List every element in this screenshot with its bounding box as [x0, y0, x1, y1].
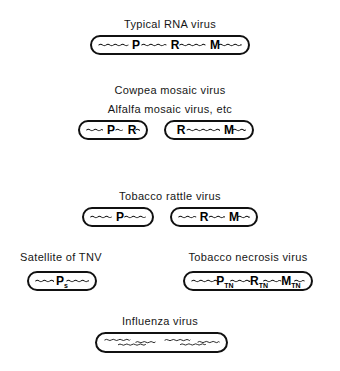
- influenza-particle-rna-strand: [97, 334, 226, 351]
- tobacco-rattle-particle-left: P: [82, 207, 154, 227]
- tobacco-rattle-particle-right-gene-r: R: [200, 211, 209, 223]
- cowpea-alfalfa-mosaic-virus-caption: Alfalfa mosaic virus, etc: [108, 103, 232, 116]
- gene-subscript: s: [64, 282, 68, 289]
- tobacco-rattle-particle-left-gene-p: P: [116, 211, 124, 223]
- tobacco-rattle-particle-right-rna-strand: [172, 209, 256, 225]
- gene-subscript: TN: [259, 282, 268, 289]
- gene-letter: P: [107, 123, 115, 137]
- satellite-and-necrosis-caption: Satellite of TNV: [20, 251, 102, 264]
- gene-letter: R: [250, 274, 259, 288]
- typical-rna-virus-particle-gene-m: M: [210, 39, 220, 51]
- virus-genome-organization-diagram: Typical RNA virusPRMCowpea mosaic virusA…: [0, 0, 340, 371]
- tobacco-rattle-particle-right-gene-m: M: [229, 211, 239, 223]
- cowpea-alfalfa-particle-left: PR: [78, 120, 148, 140]
- typical-rna-virus-particle-gene-r: R: [171, 39, 180, 51]
- cowpea-alfalfa-particle-left-gene-p: P: [107, 124, 115, 136]
- gene-subscript: TN: [291, 282, 300, 289]
- gene-letter: R: [200, 210, 209, 224]
- gene-letter: M: [224, 123, 234, 137]
- cowpea-alfalfa-particle-left-gene-r: R: [128, 124, 137, 136]
- cowpea-alfalfa-particle-right: RM: [164, 120, 254, 140]
- influenza-particle: [95, 332, 228, 353]
- tobacco-necrosis-particle-gene-ptn: PTN: [216, 275, 233, 287]
- typical-rna-virus-caption: Typical RNA virus: [124, 18, 216, 31]
- satellite-tnv-particle-gene-ps: Ps: [56, 275, 68, 287]
- gene-letter: M: [281, 274, 291, 288]
- tobacco-rattle-particle-right: RM: [170, 207, 258, 227]
- satellite-tnv-particle: Ps: [27, 271, 97, 291]
- tobacco-necrosis-particle-gene-rtn: RTN: [250, 275, 268, 287]
- gene-subscript: TN: [224, 282, 233, 289]
- cowpea-alfalfa-mosaic-virus-caption: Cowpea mosaic virus: [114, 84, 225, 97]
- gene-letter: R: [171, 38, 180, 52]
- cowpea-alfalfa-particle-right-gene-r: R: [177, 124, 186, 136]
- tobacco-necrosis-particle: PTNRTNMTN: [183, 271, 313, 291]
- cowpea-alfalfa-particle-right-gene-m: M: [224, 124, 234, 136]
- gene-letter: M: [210, 38, 220, 52]
- gene-letter: R: [128, 123, 137, 137]
- tobacco-necrosis-particle-gene-mtn: MTN: [281, 275, 300, 287]
- typical-rna-virus-particle: PRM: [90, 35, 250, 55]
- satellite-and-necrosis-caption: Tobacco necrosis virus: [189, 251, 308, 264]
- tobacco-rattle-virus-caption: Tobacco rattle virus: [119, 190, 221, 203]
- gene-letter: P: [132, 38, 140, 52]
- typical-rna-virus-particle-gene-p: P: [132, 39, 140, 51]
- gene-letter: M: [229, 210, 239, 224]
- gene-letter: R: [177, 123, 186, 137]
- influenza-virus-caption: Influenza virus: [122, 315, 198, 328]
- gene-letter: P: [216, 274, 224, 288]
- gene-letter: P: [116, 210, 124, 224]
- gene-letter: P: [56, 274, 64, 288]
